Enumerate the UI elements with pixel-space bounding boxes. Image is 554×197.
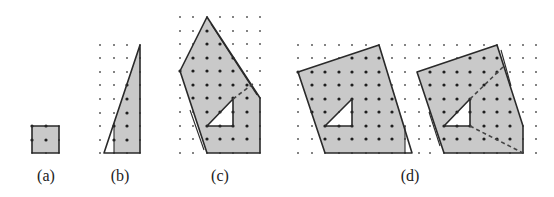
panel-a	[30, 124, 60, 154]
lattice-point	[535, 152, 537, 154]
lattice-point	[429, 125, 431, 127]
panel-d-right	[417, 44, 537, 154]
lattice-point	[482, 124, 485, 127]
lattice-point	[455, 83, 458, 86]
lattice-point	[428, 70, 431, 73]
lattice-point	[535, 98, 537, 100]
lattice-point	[522, 98, 524, 100]
lattice-point	[179, 152, 181, 154]
lattice-point	[377, 97, 380, 100]
lattice-point	[99, 125, 101, 127]
lattice-point	[364, 56, 367, 59]
lattice-point	[391, 57, 393, 59]
lattice-point	[205, 96, 208, 99]
lattice-point	[125, 97, 128, 100]
lattice-point	[390, 124, 393, 127]
lattice-point	[246, 16, 248, 18]
lattice-point	[350, 83, 353, 86]
lattice-point	[442, 97, 445, 100]
lattice-point	[455, 137, 458, 140]
lattice-point	[245, 110, 248, 113]
lattice-point	[205, 42, 208, 45]
lattice-point	[442, 83, 445, 86]
lattice-point	[483, 44, 485, 46]
lattice-point	[192, 125, 194, 127]
lattice-point	[232, 43, 234, 45]
lattice-point	[535, 125, 537, 127]
lattice-polygon-figure	[0, 0, 554, 197]
lattice-point	[455, 97, 458, 100]
lattice-point	[245, 124, 248, 127]
lattice-point	[468, 83, 471, 86]
lattice-point	[377, 56, 380, 59]
lattice-point	[508, 110, 511, 113]
lattice-point	[428, 97, 431, 100]
lattice-point	[311, 152, 313, 154]
lattice-point	[297, 84, 299, 86]
lattice-point	[337, 97, 340, 100]
lattice-point	[259, 16, 261, 18]
lattice-point	[246, 43, 248, 45]
lattice-point	[377, 110, 380, 113]
lattice-point	[99, 44, 101, 46]
lattice-point	[311, 138, 313, 140]
lattice-point	[364, 97, 367, 100]
lattice-point	[232, 30, 234, 32]
lattice-point	[482, 137, 485, 140]
lattice-point	[495, 56, 498, 59]
lattice-point	[99, 112, 101, 114]
lattice-point	[245, 83, 248, 86]
lattice-point	[482, 110, 485, 113]
lattice-point	[99, 152, 101, 154]
lattice-point	[125, 124, 128, 127]
lattice-point	[404, 98, 406, 100]
lattice-point	[337, 70, 340, 73]
lattice-point	[297, 98, 299, 100]
lattice-point	[337, 83, 340, 86]
lattice-point	[350, 137, 353, 140]
lattice-point	[205, 110, 208, 113]
lattice-point	[219, 16, 221, 18]
lattice-point	[495, 97, 498, 100]
lattice-point	[508, 124, 511, 127]
lattice-point	[205, 69, 208, 72]
lattice-point	[191, 83, 194, 86]
lattice-point	[232, 16, 234, 18]
lattice-point	[125, 138, 128, 141]
lattice-point	[245, 137, 248, 140]
lattice-point	[205, 56, 208, 59]
lattice-point	[364, 137, 367, 140]
lattice-point	[404, 111, 406, 113]
lattice-point	[126, 71, 128, 73]
lattice-point	[323, 97, 326, 100]
lattice-point	[259, 70, 261, 72]
lattice-point	[179, 16, 181, 18]
lattice-point	[377, 83, 380, 86]
lattice-point	[428, 83, 431, 86]
lattice-point	[418, 125, 420, 127]
lattice-point	[323, 137, 326, 140]
lattice-point	[377, 124, 380, 127]
lattice-point	[509, 71, 511, 73]
lattice-point	[245, 96, 248, 99]
lattice-point	[311, 57, 313, 59]
lattice-point	[126, 44, 128, 46]
lattice-point	[218, 137, 221, 140]
lattice-point	[179, 138, 181, 140]
lattice-point	[338, 44, 340, 46]
lattice-point	[324, 57, 326, 59]
lattice-point	[418, 111, 420, 113]
panel-label-d: (d)	[390, 166, 430, 186]
lattice-point	[297, 125, 299, 127]
lattice-point	[179, 84, 181, 86]
lattice-point	[218, 83, 221, 86]
lattice-point	[535, 44, 537, 46]
lattice-point	[192, 16, 194, 18]
lattice-point	[509, 57, 511, 59]
lattice-point	[311, 44, 313, 46]
lattice-point	[418, 98, 420, 100]
lattice-point	[231, 137, 234, 140]
lattice-point	[429, 57, 431, 59]
lattice-point	[179, 97, 181, 99]
lattice-point	[468, 70, 471, 73]
